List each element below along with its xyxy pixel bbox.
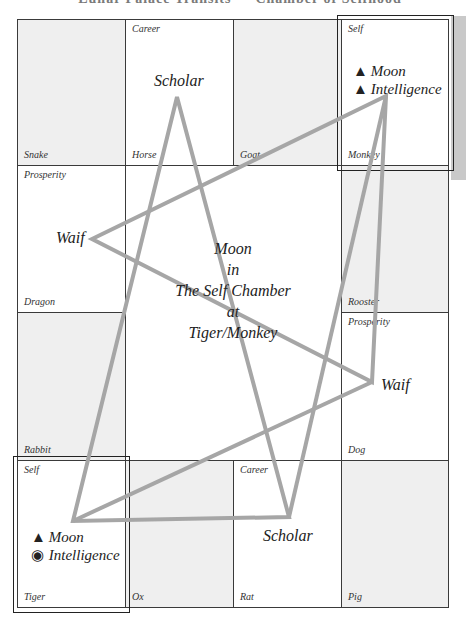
caption-line: at <box>125 301 341 322</box>
circled-dot-icon: ◉ <box>31 546 45 564</box>
marker-row: ▲ Moon <box>31 528 120 546</box>
star-waif-right: Waif <box>381 376 410 394</box>
triangle-icon: ▲ <box>353 80 367 98</box>
triangle-icon: ▲ <box>353 62 367 80</box>
caption-line: Tiger/Monkey <box>125 322 341 343</box>
caption-line: Moon <box>125 238 341 259</box>
marker-label: Moon <box>49 529 84 545</box>
star-scholar-bottom: Scholar <box>263 527 313 545</box>
caption-line: in <box>125 259 341 280</box>
triangle-icon: ▲ <box>31 528 45 546</box>
marker-row: ◉ Intelligence <box>31 546 120 564</box>
marker-label: Intelligence <box>49 547 120 563</box>
caption-line: The Self Chamber <box>125 280 341 301</box>
star-scholar-top: Scholar <box>154 72 204 90</box>
marker-label: Moon <box>371 63 406 79</box>
monkey-markers: ▲ Moon ▲ Intelligence <box>353 62 442 98</box>
star-waif-left: Waif <box>56 229 85 247</box>
marker-row: ▲ Intelligence <box>353 80 442 98</box>
tiger-markers: ▲ Moon ◉ Intelligence <box>31 528 120 564</box>
marker-label: Intelligence <box>371 81 442 97</box>
center-caption: Moon in The Self Chamber at Tiger/Monkey <box>125 238 341 343</box>
marker-row: ▲ Moon <box>353 62 442 80</box>
